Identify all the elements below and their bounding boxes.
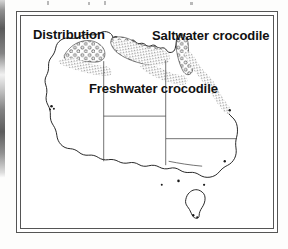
label-freshwater-crocodile: Freshwater crocodile bbox=[89, 82, 218, 95]
figure-root: Distribution Saltwater crocodile Freshwa… bbox=[0, 0, 288, 249]
map-layer-land bbox=[45, 32, 237, 219]
label-distribution: Distribution bbox=[33, 28, 105, 41]
scan-speckle bbox=[47, 1, 49, 5]
label-saltwater-crocodile: Saltwater crocodile bbox=[152, 29, 269, 42]
scan-speckle bbox=[104, 1, 106, 5]
tasmania-outline bbox=[186, 190, 206, 219]
figure-frame-inner: Distribution Saltwater crocodile Freshwa… bbox=[20, 15, 274, 229]
australia-map-svg bbox=[21, 16, 273, 228]
figure-frame-outer: Distribution Saltwater crocodile Freshwa… bbox=[16, 11, 278, 233]
scan-speckle bbox=[88, 2, 90, 5]
scan-speckle bbox=[190, 2, 193, 5]
map-stage: Distribution Saltwater crocodile Freshwa… bbox=[21, 16, 273, 228]
scan-edge-artifact bbox=[0, 0, 5, 178]
